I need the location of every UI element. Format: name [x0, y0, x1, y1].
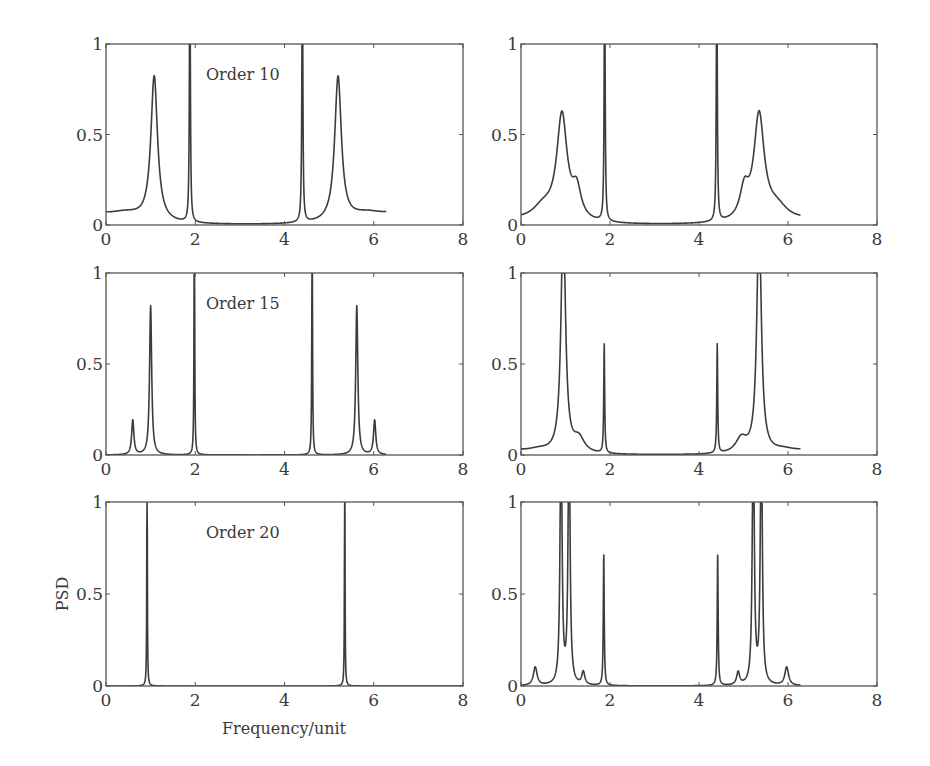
order-annotation: Order 20: [206, 523, 280, 542]
y-tick-label: 0: [507, 445, 518, 465]
x-tick-label: 8: [872, 690, 883, 710]
y-tick-label: 0: [507, 215, 518, 235]
psd-curve: [521, 44, 800, 223]
y-tick-label: 0.5: [491, 354, 518, 374]
x-tick-label: 4: [279, 690, 290, 710]
y-axis-title: PSD: [53, 577, 72, 612]
panel-row3-right: 0246800.51: [491, 492, 882, 710]
y-tick-label: 0.5: [76, 354, 103, 374]
x-tick-label: 4: [694, 459, 705, 479]
panels-container: 0246800.51Order 100246800.510246800.51Or…: [76, 34, 882, 710]
axes-frame: [521, 273, 877, 455]
x-tick-label: 8: [458, 690, 469, 710]
psd-curve: [521, 502, 800, 686]
panel-row1-left: 0246800.51Order 10: [76, 34, 468, 249]
x-tick-label: 8: [458, 229, 469, 249]
y-tick-label: 1: [507, 263, 518, 283]
order-annotation: Order 15: [206, 294, 280, 313]
y-tick-label: 0: [92, 676, 103, 696]
order-annotation: Order 10: [206, 65, 280, 84]
panel-row1-right: 0246800.51: [491, 34, 882, 249]
x-tick-label: 4: [279, 459, 290, 479]
x-tick-label: 6: [783, 229, 794, 249]
x-tick-label: 6: [368, 459, 379, 479]
x-tick-label: 4: [694, 690, 705, 710]
x-tick-label: 2: [605, 229, 616, 249]
x-tick-label: 2: [190, 459, 201, 479]
axes-frame: [521, 502, 877, 686]
y-tick-label: 0: [507, 676, 518, 696]
axes-frame: [106, 44, 463, 225]
y-tick-label: 1: [92, 492, 103, 512]
y-tick-label: 0: [92, 445, 103, 465]
y-tick-label: 0.5: [491, 125, 518, 145]
y-tick-label: 1: [507, 492, 518, 512]
x-axis-title: Frequency/unit: [222, 719, 347, 738]
y-tick-label: 0: [92, 215, 103, 235]
x-tick-label: 8: [872, 229, 883, 249]
y-tick-label: 1: [92, 34, 103, 54]
axes-frame: [521, 44, 877, 225]
y-tick-label: 0.5: [76, 125, 103, 145]
x-tick-label: 4: [279, 229, 290, 249]
y-tick-label: 0.5: [76, 584, 103, 604]
psd-curve: [521, 273, 800, 454]
x-tick-label: 6: [368, 229, 379, 249]
x-tick-label: 6: [368, 690, 379, 710]
x-tick-label: 2: [190, 690, 201, 710]
x-tick-label: 6: [783, 690, 794, 710]
y-tick-label: 0.5: [491, 584, 518, 604]
x-tick-label: 8: [458, 459, 469, 479]
y-tick-label: 1: [92, 263, 103, 283]
psd-figure: 0246800.51Order 100246800.510246800.51Or…: [0, 0, 930, 766]
y-tick-label: 1: [507, 34, 518, 54]
psd-curve: [106, 502, 463, 686]
panel-row2-right: 0246800.51: [491, 263, 882, 479]
panel-row3-left: 0246800.51Order 20: [76, 492, 468, 710]
x-tick-label: 4: [694, 229, 705, 249]
x-tick-label: 6: [783, 459, 794, 479]
x-tick-label: 8: [872, 459, 883, 479]
panel-row2-left: 0246800.51Order 15: [76, 263, 468, 479]
x-tick-label: 2: [190, 229, 201, 249]
axes-frame: [106, 502, 463, 686]
axes-frame: [106, 273, 463, 455]
x-tick-label: 2: [605, 690, 616, 710]
x-tick-label: 2: [605, 459, 616, 479]
